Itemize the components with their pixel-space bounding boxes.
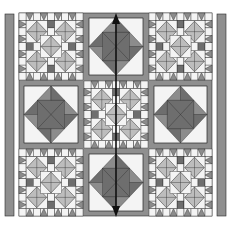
quilt-block-diamond-star xyxy=(149,13,212,80)
quilt-diagram xyxy=(0,0,231,232)
quilt-block-diamond-star xyxy=(19,149,83,216)
quilt-block-diamond-star xyxy=(19,13,83,80)
quilt-block-sawtooth-star xyxy=(154,86,207,143)
quilt-block-sawtooth-star xyxy=(24,86,78,143)
quilt-block-diamond-star xyxy=(149,149,212,216)
